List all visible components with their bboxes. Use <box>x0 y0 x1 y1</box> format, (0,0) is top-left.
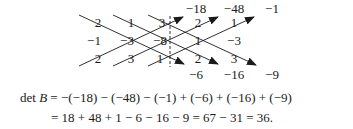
repeated-columns: 2 1 2 1 −3 3 <box>195 15 241 66</box>
repeat-c2-r3: 3 <box>231 51 238 66</box>
repeat-c1-r1: 2 <box>195 15 202 30</box>
matrix-entries: 2 1 3 −1 −3 −8 2 3 1 <box>87 15 167 66</box>
entry-r3c1: 2 <box>95 51 102 66</box>
entry-r1c2: 1 <box>128 15 135 30</box>
determinant-equation-line-2: = 18 + 48 + 1 − 6 − 16 − 9 = 67 − 31 = 3… <box>51 111 273 124</box>
repeat-c2-r1: 1 <box>231 15 238 30</box>
bottom-products: −6 −16 −9 <box>189 67 279 82</box>
expansion-terms: = −(−18) − (−48) − (−1) + (−6) + (−16) +… <box>47 90 292 105</box>
entry-r1c1: 2 <box>95 15 102 30</box>
entry-r1c3: 3 <box>159 15 166 30</box>
repeat-c1-r2: 1 <box>195 33 202 48</box>
entry-r2c3: −8 <box>153 33 167 48</box>
entry-r3c2: 3 <box>128 51 135 66</box>
entry-r2c1: −1 <box>87 33 101 48</box>
product-top-3: −1 <box>265 1 279 16</box>
product-bottom-1: −6 <box>189 67 203 82</box>
product-top-1: −18 <box>186 1 206 16</box>
entry-r3c3: 1 <box>157 51 164 66</box>
entry-r2c2: −3 <box>120 33 134 48</box>
repeat-c2-r2: −3 <box>227 33 241 48</box>
product-top-2: −48 <box>224 1 244 16</box>
product-bottom-3: −9 <box>265 67 279 82</box>
determinant-equation-line-1: det B = −(−18) − (−48) − (−1) + (−6) + (… <box>20 91 292 104</box>
repeat-c1-r3: 2 <box>195 51 202 66</box>
sarrus-diagram: 2 1 3 −1 −3 −8 2 3 1 2 1 2 1 −3 3 −18 −4… <box>0 0 353 90</box>
det-label: det <box>20 90 39 105</box>
matrix-variable: B <box>39 90 47 105</box>
top-products: −18 −48 −1 <box>186 1 279 16</box>
product-bottom-2: −16 <box>224 67 245 82</box>
